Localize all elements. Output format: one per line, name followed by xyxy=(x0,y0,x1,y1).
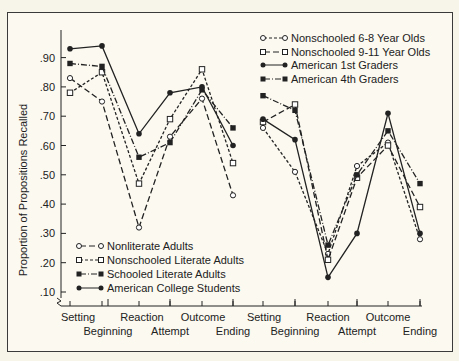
data-point xyxy=(260,116,266,122)
legend-label: American 4th Graders xyxy=(291,73,399,85)
y-tick-label: .10 xyxy=(40,286,55,298)
data-point xyxy=(67,46,73,52)
x-tick-label: Setting xyxy=(61,311,95,323)
data-point xyxy=(417,231,423,237)
data-point xyxy=(136,131,142,137)
data-point xyxy=(385,143,390,148)
data-point xyxy=(354,163,359,168)
open-circle-icon xyxy=(283,36,288,41)
x-tick-label: Attempt xyxy=(338,325,376,337)
y-tick-label: .60 xyxy=(40,140,55,152)
data-point xyxy=(292,169,297,174)
filled-square-icon xyxy=(261,77,266,82)
data-point xyxy=(67,90,72,95)
data-point xyxy=(99,64,104,69)
data-point xyxy=(167,90,173,96)
data-point xyxy=(292,108,297,113)
legend-label: American College Students xyxy=(107,282,241,294)
data-point xyxy=(67,76,72,81)
data-point xyxy=(67,61,72,66)
filled-circle-icon xyxy=(77,286,82,291)
y-tick-label: .70 xyxy=(40,110,55,122)
data-point xyxy=(292,137,298,143)
data-point xyxy=(136,225,141,230)
y-tick-label: .80 xyxy=(40,81,55,93)
x-tick-label: Reaction xyxy=(120,311,163,323)
x-ticks: SettingReactionOutcomeSettingReactionOut… xyxy=(61,299,437,337)
x-tick-label: Beginning xyxy=(271,325,320,337)
legend-label: Nonschooled 6-8 Year Olds xyxy=(291,32,425,44)
filled-circle-icon xyxy=(261,63,266,68)
legend-label: Nonschooled Literate Adults xyxy=(107,254,244,266)
data-point xyxy=(260,93,265,98)
data-point xyxy=(417,181,422,186)
legend-left: Nonliterate Adults Nonschooled Literate … xyxy=(77,240,245,294)
legend-label: Nonschooled 9-11 Year Olds xyxy=(291,46,431,58)
data-point xyxy=(260,125,265,130)
x-tick-label: Beginning xyxy=(84,325,133,337)
data-point xyxy=(325,275,331,281)
data-point xyxy=(136,181,141,186)
filled-circle-icon xyxy=(283,63,288,68)
series-line xyxy=(70,64,233,158)
open-circle-icon xyxy=(77,244,82,249)
y-ticks: .10.20.30.40.50.60.70.80.90 xyxy=(40,52,66,298)
x-tick-label: Ending xyxy=(403,325,437,337)
data-point xyxy=(325,242,330,247)
data-point xyxy=(136,155,141,160)
y-tick-label: .30 xyxy=(40,227,55,239)
x-tick-label: Ending xyxy=(216,325,250,337)
data-point xyxy=(99,99,104,104)
data-point xyxy=(385,128,390,133)
open-circle-icon xyxy=(99,244,104,249)
data-point xyxy=(417,237,422,242)
x-tick-label: Outcome xyxy=(366,311,411,323)
y-tick-label: .90 xyxy=(40,52,55,64)
data-point xyxy=(167,140,172,145)
axis-break-icon xyxy=(57,298,61,306)
data-point xyxy=(230,143,236,149)
x-tick-label: Outcome xyxy=(181,311,226,323)
legend-label: American 1st Graders xyxy=(291,59,398,71)
data-point xyxy=(230,160,235,165)
data-point xyxy=(292,102,297,107)
data-point xyxy=(325,257,330,262)
data-point xyxy=(230,193,235,198)
filled-circle-icon xyxy=(99,286,104,291)
filled-square-icon xyxy=(283,77,288,82)
series-line xyxy=(70,69,233,183)
legend-label: Schooled Literate Adults xyxy=(107,268,226,280)
data-point xyxy=(199,84,205,90)
y-tick-label: .40 xyxy=(40,198,55,210)
data-point xyxy=(354,172,359,177)
line-chart: .10.20.30.40.50.60.70.80.90 SettingReact… xyxy=(0,0,459,361)
legend-label: Nonliterate Adults xyxy=(107,240,194,252)
x-tick-label: Setting xyxy=(247,311,281,323)
x-tick-label: Reaction xyxy=(306,311,349,323)
open-circle-icon xyxy=(261,36,266,41)
open-square-icon xyxy=(261,50,266,55)
filled-square-icon xyxy=(77,272,82,277)
x-tick-label: Attempt xyxy=(151,325,189,337)
series-line xyxy=(263,105,420,260)
data-point xyxy=(199,67,204,72)
data-point xyxy=(354,231,360,237)
data-point xyxy=(230,125,235,130)
series-line xyxy=(263,113,420,277)
open-square-icon xyxy=(77,258,82,263)
filled-square-icon xyxy=(99,272,104,277)
data-point xyxy=(99,43,105,49)
open-square-icon xyxy=(283,50,288,55)
legend-right: Nonschooled 6-8 Year Olds Nonschooled 9-… xyxy=(261,32,431,85)
data-point xyxy=(385,110,391,116)
y-tick-label: .50 xyxy=(40,169,55,181)
data-point xyxy=(417,204,422,209)
y-tick-label: .20 xyxy=(40,257,55,269)
y-axis-label: Proportion of Propositions Recalled xyxy=(17,104,29,276)
data-point xyxy=(199,96,204,101)
open-square-icon xyxy=(99,258,104,263)
data-point xyxy=(167,116,172,121)
